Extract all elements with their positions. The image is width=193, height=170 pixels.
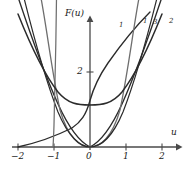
- plot-canvas: [0, 0, 193, 170]
- x-tick-label--2: −2: [11, 152, 24, 161]
- curve-label-3: 3: [153, 19, 157, 26]
- y-tick-label-2: 2: [77, 67, 83, 76]
- y-axis-label: F(u): [65, 9, 84, 18]
- x-tick-label-2: 2: [159, 152, 165, 161]
- x-tick-label-1: 1: [123, 152, 129, 161]
- curve-label-1a: 1: [119, 22, 123, 29]
- x-axis-label: u: [171, 128, 177, 137]
- y-axis-arrowhead: [87, 16, 94, 23]
- curve-label-1b: 1: [143, 18, 147, 25]
- curve-label-2: 2: [169, 18, 173, 25]
- axes-group: [12, 16, 183, 151]
- x-tick-label-0: 0: [86, 152, 92, 161]
- x-axis-arrowhead: [176, 144, 183, 151]
- figure-plot-F-of-u: F(u) u −2 −1 0 1 2 2 1 1 3 2: [0, 0, 193, 170]
- x-tick-label--1: −1: [47, 152, 60, 161]
